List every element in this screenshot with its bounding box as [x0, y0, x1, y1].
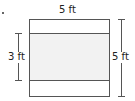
shaded-band — [30, 34, 110, 81]
right-height-label: 5 ft — [112, 52, 129, 62]
top-width-label: 5 ft — [59, 5, 76, 15]
bullet-dot — [2, 12, 4, 14]
left-height-label: 3 ft — [8, 52, 25, 62]
